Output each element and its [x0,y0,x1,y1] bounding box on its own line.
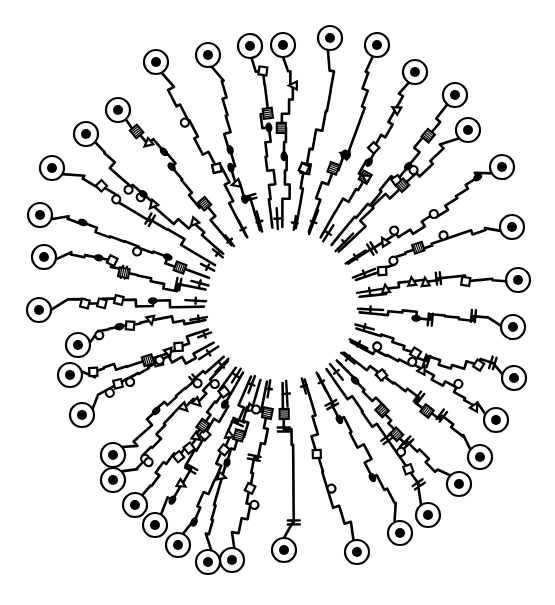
filled-oval [411,314,422,322]
square-motif [460,276,471,287]
terminal-dot-icon [513,275,523,285]
loop-motif [251,405,261,415]
square-shape [378,267,386,275]
square-shape [461,277,470,286]
loop-shape [251,405,261,415]
terminal-dot-icon [151,57,161,67]
loop-motif [428,208,439,219]
square-shape [89,368,97,376]
filled-oval-motif [77,217,89,227]
hatched-box [262,407,273,419]
loop-motif [95,331,104,340]
loop-shape [438,230,448,240]
terminal-dot-icon [203,50,213,60]
terminal-dot-icon [278,40,288,50]
hatched-box-motif [233,429,244,441]
triangle-motif [381,284,390,293]
terminal-dot-icon [130,500,140,510]
hatch-line [264,110,271,111]
circuit-trace [126,119,232,245]
terminal-dot-icon [491,415,501,425]
square-motif [124,320,136,332]
loop-shape [155,355,165,365]
terminal-dot-icon [454,479,464,489]
triangle-shape [381,284,390,293]
filled-oval-motif [367,471,378,483]
loop-motif [132,246,142,256]
hatched-box [420,404,433,417]
terminal-dot-icon [352,547,362,557]
hatched-box-motif [263,108,273,119]
square-shape [113,379,123,389]
filled-oval-motif [280,151,287,161]
terminal-dot-icon [73,340,83,350]
spoke-tick [199,280,201,286]
spoke-tick [364,324,366,330]
hatched-box [233,429,244,441]
hatch-line [264,114,271,115]
filled-oval-motif [411,314,422,322]
hatched-box-motif [412,242,424,254]
terminal-dot-icon [509,373,519,383]
spoke-tick [249,383,255,385]
capacitor-plate [428,313,429,325]
capacitor-plate [179,279,181,291]
loop-shape [372,341,383,352]
circuit-trace [211,67,260,231]
terminal-dot-icon [35,210,45,220]
terminal-dot-icon [463,125,473,135]
terminal-dot-icon [279,545,289,555]
terminal-dot-icon [325,33,335,43]
loop-shape [388,256,398,266]
square-motif [106,255,118,267]
terminal-dot-icon [39,252,49,262]
terminal-dot-icon [227,555,237,565]
loop-shape [95,331,104,340]
spoke-tick [369,288,370,294]
terminal-dot-icon [508,322,518,332]
filled-oval [367,471,378,483]
hatched-box-motif [327,162,339,174]
filled-oval-motif [265,122,273,133]
circuit-trace [296,50,334,228]
capacitor-plate [475,310,476,322]
square-shape [403,464,413,474]
terminal-dot-icon [150,520,160,530]
filled-oval [162,252,174,262]
spoke-tick [204,332,206,338]
filled-oval [222,457,231,469]
square-shape [299,163,310,174]
square-shape [258,66,267,75]
hatched-box [118,267,130,278]
capacitor-plate [436,273,437,285]
circuit-trace [252,58,276,228]
radial-circuit-drawing [0,0,555,605]
terminal-dot-icon [410,67,420,77]
hatched-box [263,108,273,119]
square-motif [376,265,388,277]
circuit-trace [332,104,448,245]
square-motif [97,298,107,308]
square-motif [87,366,99,378]
terminal-dot-icon [423,510,433,520]
loop-motif [155,355,165,365]
circuit-trace [360,310,502,326]
filled-oval [93,253,104,262]
terminal-dot-icon [108,450,118,460]
square-motif [244,483,256,495]
square-motif [210,161,223,174]
loop-motif [327,484,337,494]
square-shape [107,255,118,266]
spoke-tick [206,265,209,270]
loop-shape [250,500,259,509]
circuit-trace [51,298,204,309]
hatched-box-motif [262,407,273,419]
hatch-line [264,112,271,113]
filled-oval [148,297,158,304]
terminal-dot-icon [65,370,75,380]
circuit-trace [282,57,293,227]
square-shape [473,360,484,371]
filled-oval-motif [93,253,104,262]
filled-oval-motif [162,252,174,262]
loop-shape [428,208,439,219]
